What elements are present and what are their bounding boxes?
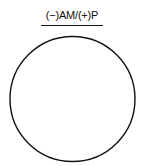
circle-shape — [0, 0, 149, 166]
